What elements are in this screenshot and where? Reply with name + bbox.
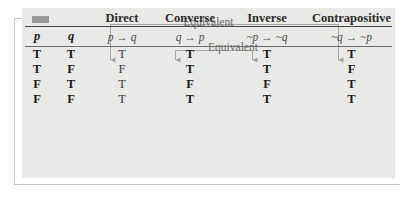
cell-q: F bbox=[52, 92, 90, 107]
cell-inverse: T bbox=[226, 47, 308, 62]
cell-converse: T bbox=[154, 92, 226, 107]
cell-q: T bbox=[52, 77, 90, 92]
cell-converse: F bbox=[154, 77, 226, 92]
cell-direct: T bbox=[90, 77, 154, 92]
cell-contrapositive: T bbox=[308, 92, 395, 107]
cell-direct: T bbox=[90, 92, 154, 107]
cell-converse: T bbox=[154, 62, 226, 77]
cell-q: T bbox=[52, 47, 90, 62]
truth-table: Direct Converse Inverse Contrapositive p… bbox=[22, 8, 395, 107]
cell-contrapositive: T bbox=[308, 77, 395, 92]
cell-p: F bbox=[22, 77, 52, 92]
table-row: T T T T T T bbox=[22, 47, 395, 62]
header-blank-p bbox=[22, 8, 52, 26]
table-row: T F F T T F bbox=[22, 62, 395, 77]
cell-contrapositive: T bbox=[308, 47, 395, 62]
cell-inverse: F bbox=[226, 77, 308, 92]
cell-direct: T bbox=[90, 47, 154, 62]
cell-q: F bbox=[52, 62, 90, 77]
formula-p: p bbox=[22, 27, 52, 46]
header-blank-q bbox=[52, 8, 90, 26]
table-header-row: Direct Converse Inverse Contrapositive bbox=[22, 8, 395, 26]
formula-inverse: ~p → ~q bbox=[226, 27, 308, 46]
cell-inverse: T bbox=[226, 92, 308, 107]
header-contrapositive: Contrapositive bbox=[308, 8, 395, 26]
cell-converse: T bbox=[154, 47, 226, 62]
header-converse: Converse bbox=[154, 8, 226, 26]
cell-direct: F bbox=[90, 62, 154, 77]
table-row: F F T T T T bbox=[22, 92, 395, 107]
cell-p: T bbox=[22, 62, 52, 77]
formula-direct: p → q bbox=[90, 27, 154, 46]
formula-q: q bbox=[52, 27, 90, 46]
table-row: F T T F F T bbox=[22, 77, 395, 92]
cell-inverse: T bbox=[226, 62, 308, 77]
formula-contrapositive: ~q → ~p bbox=[308, 27, 395, 46]
cell-p: T bbox=[22, 47, 52, 62]
formula-row: p q p → q q → p ~p → ~q ~q → ~p bbox=[22, 27, 395, 46]
cell-contrapositive: F bbox=[308, 62, 395, 77]
truth-table-body: T T T T T T T F F T T F F T T F F T F F … bbox=[22, 47, 395, 107]
header-inverse: Inverse bbox=[226, 8, 308, 26]
cell-p: F bbox=[22, 92, 52, 107]
header-direct: Direct bbox=[90, 8, 154, 26]
formula-converse: q → p bbox=[154, 27, 226, 46]
